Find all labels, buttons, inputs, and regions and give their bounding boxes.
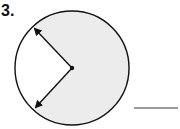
shaded-sector xyxy=(33,11,130,125)
circle-figure xyxy=(0,0,180,129)
center-point xyxy=(70,66,74,70)
